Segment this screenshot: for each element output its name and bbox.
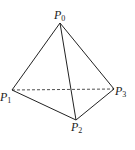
label-p1: P1 — [0, 90, 11, 105]
label-p2: P2 — [70, 120, 82, 135]
label-p0: P0 — [53, 8, 65, 23]
edge-p1-p2 — [12, 90, 76, 120]
edge-p0-p3 — [60, 23, 114, 89]
tetrahedron-diagram: P0 P1 P2 P3 — [0, 0, 135, 150]
label-p3: P3 — [114, 84, 126, 99]
edge-p0-p1 — [12, 23, 60, 90]
edge-p2-p3 — [76, 89, 114, 120]
edges — [12, 23, 114, 120]
edge-p0-p2 — [60, 23, 76, 120]
edge-p1-p3-hidden — [12, 89, 114, 90]
